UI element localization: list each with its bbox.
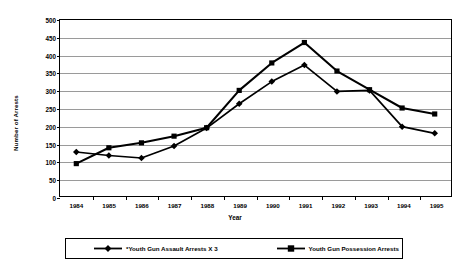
- data-point-square: [171, 134, 176, 139]
- series-layer: [60, 20, 451, 196]
- x-tick-mark: [126, 196, 127, 200]
- x-tick-mark: [93, 196, 94, 200]
- legend-marker-square-icon: [276, 244, 306, 253]
- y-tick-label: 500: [45, 17, 56, 24]
- data-point-square: [400, 105, 405, 110]
- data-point-square: [139, 140, 144, 145]
- data-point-diamond: [431, 130, 438, 137]
- legend-label-possession: Youth Gun Possession Arrests: [309, 245, 399, 252]
- data-point-square: [237, 88, 242, 93]
- y-tick-label: 200: [45, 123, 56, 130]
- x-tick-mark: [257, 196, 258, 200]
- legend-item-assault: *Youth Gun Assault Arrests X 3: [93, 244, 218, 253]
- x-tick-mark: [158, 196, 159, 200]
- x-tick-mark: [420, 196, 421, 200]
- x-tick-mark: [289, 196, 290, 200]
- x-tick-mark: [355, 196, 356, 200]
- x-tick-label: 1987: [168, 202, 182, 209]
- data-point-square: [204, 125, 209, 130]
- x-tick-label: 1995: [430, 202, 444, 209]
- legend-item-possession: Youth Gun Possession Arrests: [276, 244, 399, 253]
- x-tick-label: 1988: [200, 202, 214, 209]
- line-chart: Number of Arrests 0501001502002503003504…: [0, 0, 470, 271]
- x-tick-label: 1989: [233, 202, 247, 209]
- legend-marker-diamond-icon: [93, 244, 123, 253]
- x-tick-mark: [224, 196, 225, 200]
- x-axis-title: Year: [0, 214, 470, 221]
- data-point-square: [106, 145, 111, 150]
- y-axis-title: Number of Arrests: [8, 78, 22, 168]
- data-point-diamond: [138, 155, 145, 162]
- data-point-diamond: [106, 152, 113, 159]
- plot-area: 050100150200250300350400450500 198419851…: [59, 19, 452, 197]
- y-tick-label: 100: [45, 159, 56, 166]
- data-point-square: [367, 87, 372, 92]
- data-point-square: [302, 40, 307, 45]
- chart-legend: *Youth Gun Assault Arrests X 3 Youth Gun…: [65, 238, 403, 259]
- series-possession: [74, 40, 438, 166]
- x-tick-label: 1984: [69, 202, 83, 209]
- x-tick-label: 1994: [397, 202, 411, 209]
- y-tick-label: 450: [45, 34, 56, 41]
- data-point-square: [74, 161, 79, 166]
- y-tick-label: 150: [45, 141, 56, 148]
- y-tick-mark: [57, 198, 60, 199]
- y-tick-label: 300: [45, 88, 56, 95]
- data-point-square: [334, 68, 339, 73]
- x-tick-label: 1991: [299, 202, 313, 209]
- data-point-diamond: [171, 143, 178, 150]
- legend-label-assault: *Youth Gun Assault Arrests X 3: [126, 245, 218, 252]
- data-point-square: [432, 111, 437, 116]
- y-tick-label: 0: [52, 195, 56, 202]
- x-tick-label: 1985: [102, 202, 116, 209]
- x-tick-label: 1986: [135, 202, 149, 209]
- x-tick-label: 1990: [266, 202, 280, 209]
- data-point-diamond: [73, 149, 80, 156]
- y-tick-label: 400: [45, 52, 56, 59]
- y-tick-label: 350: [45, 70, 56, 77]
- x-tick-mark: [388, 196, 389, 200]
- y-tick-label: 50: [49, 177, 56, 184]
- x-tick-mark: [322, 196, 323, 200]
- x-tick-label: 1992: [331, 202, 345, 209]
- x-tick-label: 1993: [364, 202, 378, 209]
- x-tick-mark: [191, 196, 192, 200]
- y-tick-label: 250: [45, 106, 56, 113]
- data-point-square: [269, 60, 274, 65]
